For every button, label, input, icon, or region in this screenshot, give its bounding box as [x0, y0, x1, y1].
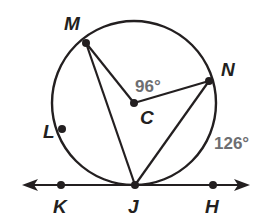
label-h: H [205, 196, 220, 217]
segment-nj [135, 81, 209, 185]
point-m [82, 39, 90, 47]
arc-nj-label: 126° [214, 134, 249, 153]
point-j [131, 181, 139, 189]
point-l [58, 125, 66, 133]
diagram-svg: M N C L J K H 96° 126° [0, 0, 272, 217]
point-k [57, 181, 65, 189]
segment-mj [86, 43, 135, 185]
point-h [209, 181, 217, 189]
central-angle-label: 96° [135, 77, 161, 96]
label-j: J [128, 196, 139, 217]
geometry-diagram: M N C L J K H 96° 126° [0, 0, 272, 217]
label-m: M [64, 13, 81, 34]
point-c [130, 99, 138, 107]
label-c: C [140, 107, 154, 128]
label-n: N [221, 59, 236, 80]
point-n [205, 77, 213, 85]
segment-mc [86, 43, 134, 103]
label-k: K [53, 196, 68, 217]
label-l: L [43, 121, 55, 142]
